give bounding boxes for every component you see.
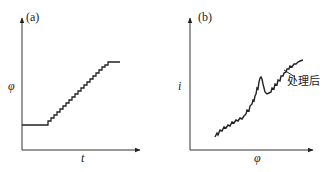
panel-b-label: (b) — [198, 11, 212, 23]
curve-a — [22, 62, 120, 125]
panel-a-axes — [22, 18, 140, 150]
annotation-processed: 处理后 — [287, 76, 320, 87]
panel-a-ylabel: φ — [8, 80, 15, 92]
panel-b-ylabel: i — [178, 80, 181, 92]
panel-b-xlabel: φ — [254, 152, 261, 164]
panel-a-xlabel: t — [81, 152, 84, 164]
figure-canvas — [0, 0, 329, 172]
panel-a-label: (a) — [26, 11, 39, 23]
curve-b — [215, 60, 303, 137]
